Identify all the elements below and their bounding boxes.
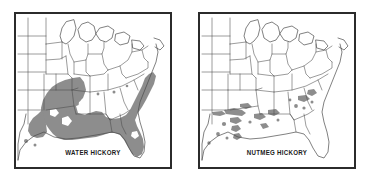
map-graphic-nutmeg-hickory <box>200 14 354 167</box>
map-label-nutmeg-hickory: NUTMEG HICKORY <box>214 148 340 157</box>
map-panel-nutmeg-hickory: NUTMEG HICKORY <box>198 12 356 169</box>
map-label-water-hickory: WATER HICKORY <box>30 148 156 157</box>
species-range-patches <box>207 89 317 145</box>
range-map-figure: WATER HICKORY <box>0 0 369 180</box>
map-graphic-water-hickory <box>16 14 170 167</box>
map-panel-water-hickory: WATER HICKORY <box>14 12 172 169</box>
